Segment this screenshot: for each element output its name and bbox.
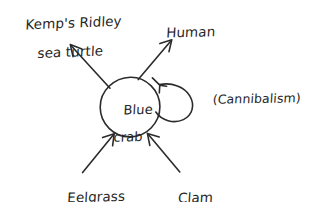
node-label-clam: Clam xyxy=(159,175,214,202)
cannibalism-label: (Cannibalism) xyxy=(212,90,301,107)
clam-label: Clam xyxy=(178,188,214,202)
blue-crab-node-label: Blue crab xyxy=(101,89,156,174)
diagram-canvas: Blue crab Kemp's Ridley sea turtle Human… xyxy=(0,0,318,202)
arrow-from-clam xyxy=(148,135,179,172)
sea-turtle-label-line1: Kemp's Ridley xyxy=(25,12,122,32)
eelgrass-label: Eelgrass xyxy=(67,187,126,202)
blue-crab-label-line2: crab xyxy=(103,130,154,145)
cannibalism-loop-circle xyxy=(156,84,193,122)
annotation-cannibalism: (Cannibalism) xyxy=(195,77,302,119)
sea-turtle-label-line2: sea turtle xyxy=(20,42,121,60)
blue-crab-label-line1: Blue xyxy=(123,102,153,118)
node-label-kemps-ridley-sea-turtle: Kemp's Ridley sea turtle xyxy=(5,0,123,91)
human-label: Human xyxy=(166,23,216,40)
node-label-eelgrass: Eelgrass xyxy=(49,174,127,202)
node-label-human: Human xyxy=(147,9,216,55)
